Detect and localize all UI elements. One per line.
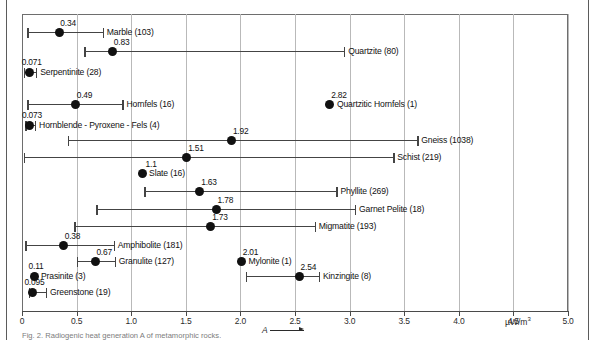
range-min-cap <box>24 153 25 163</box>
mean-value-label: 1.1 <box>146 159 157 169</box>
data-row[interactable]: Gneiss (1038)1.92 <box>0 134 595 148</box>
mean-value-label: 0.073 <box>22 110 42 120</box>
range-bar <box>68 140 417 141</box>
range-max-cap <box>114 241 115 251</box>
range-min-cap <box>246 272 247 282</box>
rock-type-label: Kinzingite (8) <box>323 271 371 281</box>
rock-type-label: Phyllite (269) <box>340 186 388 196</box>
mean-marker[interactable] <box>25 68 34 77</box>
range-bar <box>74 226 314 227</box>
axis-arrow-icon <box>270 330 304 331</box>
mean-marker[interactable] <box>206 222 215 231</box>
range-bar <box>24 157 393 158</box>
mean-value-label: 0.83 <box>114 37 130 47</box>
range-min-cap <box>27 28 28 38</box>
range-min-cap <box>144 187 145 197</box>
x-tick-label: 4.0 <box>453 316 464 326</box>
rock-type-label: Mylonite (1) <box>248 256 291 266</box>
data-row[interactable]: Schist (219)1.51 <box>0 151 595 165</box>
data-row[interactable]: Quartzitic Hornfels (1)2.82 <box>0 98 595 112</box>
range-max-cap <box>355 205 356 215</box>
axis-symbol-text: A <box>262 325 268 335</box>
mean-marker[interactable] <box>59 241 68 250</box>
data-row[interactable]: Garnet Pelite (18)1.78 <box>0 203 595 217</box>
rock-type-label: Gneiss (1038) <box>421 135 473 145</box>
mean-marker[interactable] <box>55 28 64 37</box>
range-max-cap <box>344 47 345 57</box>
data-row[interactable]: Quartzite (80)0.83 <box>0 45 595 59</box>
mean-value-label: 0.34 <box>60 18 76 28</box>
rock-type-label: Garnet Pelite (18) <box>359 204 424 214</box>
data-row[interactable]: Mylonite (1)2.01 <box>0 255 595 269</box>
range-min-cap <box>96 205 97 215</box>
range-max-cap <box>103 28 104 38</box>
data-row[interactable]: Hornblende - Pyroxene - Fels (4)0.073 <box>0 119 595 133</box>
mean-value-label: 0.38 <box>65 231 81 241</box>
data-row[interactable]: Amphibolite (181)0.38 <box>0 239 595 253</box>
data-row[interactable]: Phyllite (269)1.63 <box>0 185 595 199</box>
data-row[interactable]: Greenstone (19)0.095 <box>0 286 595 300</box>
figure-caption: Fig. 2. Radiogenic heat generation A of … <box>22 331 221 340</box>
mean-value-label: 1.51 <box>188 143 204 153</box>
mean-value-label: 2.01 <box>243 247 259 257</box>
heat-generation-chart: 00.51.01.52.02.53.03.54.04.55.0 µW/m3 A … <box>0 0 595 340</box>
range-bar <box>144 191 336 192</box>
mean-marker[interactable] <box>182 153 191 162</box>
rock-type-label: Migmatite (193) <box>319 221 376 231</box>
range-max-cap <box>319 272 320 282</box>
range-max-cap <box>315 222 316 232</box>
range-bar <box>84 51 344 52</box>
data-row[interactable]: Slate (16)1.1 <box>0 167 595 181</box>
mean-marker[interactable] <box>28 288 37 297</box>
range-min-cap <box>84 47 85 57</box>
rock-type-label: Schist (219) <box>397 152 441 162</box>
mean-marker[interactable] <box>195 187 204 196</box>
range-max-cap <box>46 288 47 298</box>
mean-value-label: 0.095 <box>24 277 44 287</box>
mean-marker[interactable] <box>25 121 34 130</box>
rock-type-label: Slate (16) <box>149 168 185 178</box>
x-tick-label: 0 <box>20 316 25 326</box>
rock-type-label: Serpentinite (28) <box>40 67 101 77</box>
range-max-cap <box>393 153 394 163</box>
rock-type-label: Hornblende - Pyroxene - Fels (4) <box>39 120 159 130</box>
mean-value-label: 1.63 <box>201 177 217 187</box>
x-tick-label: 0.5 <box>71 316 82 326</box>
range-max-cap <box>36 68 37 78</box>
range-max-cap <box>336 187 337 197</box>
mean-value-label: 2.82 <box>331 90 347 100</box>
mean-marker[interactable] <box>138 169 147 178</box>
rock-type-label: Greenstone (19) <box>50 287 110 297</box>
mean-marker[interactable] <box>108 47 117 56</box>
range-min-cap <box>25 241 26 251</box>
rock-type-label: Marble (103) <box>107 27 154 37</box>
range-max-cap <box>35 121 36 131</box>
mean-marker[interactable] <box>227 136 236 145</box>
mean-value-label: 2.54 <box>301 262 317 272</box>
x-tick-label: 5.0 <box>562 316 573 326</box>
data-row[interactable]: Migmatite (193)1.73 <box>0 220 595 234</box>
x-tick-label: 1.0 <box>126 316 137 326</box>
mean-marker[interactable] <box>237 257 246 266</box>
mean-marker[interactable] <box>295 272 304 281</box>
range-bar <box>96 209 355 210</box>
axis-unit-label: µW/m3 <box>505 316 531 327</box>
data-row[interactable]: Marble (103)0.34 <box>0 26 595 40</box>
axis-symbol-label: A <box>262 325 304 335</box>
x-tick-label: 1.5 <box>180 316 191 326</box>
rock-type-label: Amphibolite (181) <box>118 240 183 250</box>
range-min-cap <box>68 136 69 146</box>
range-min-cap <box>74 222 75 232</box>
x-tick-label: 2.0 <box>235 316 246 326</box>
data-row[interactable]: Serpentinite (28)0.071 <box>0 66 595 80</box>
unit-text: µW/m <box>505 317 527 327</box>
mean-value-label: 1.78 <box>218 195 234 205</box>
rock-type-label: Quartzite (80) <box>348 46 398 56</box>
mean-marker[interactable] <box>325 100 334 109</box>
x-tick-label: 3.0 <box>344 316 355 326</box>
x-tick-label: 3.5 <box>399 316 410 326</box>
range-bar <box>27 32 102 33</box>
data-row[interactable]: Kinzingite (8)2.54 <box>0 270 595 284</box>
range-bar <box>246 276 319 277</box>
mean-value-label: 0.071 <box>22 57 42 67</box>
